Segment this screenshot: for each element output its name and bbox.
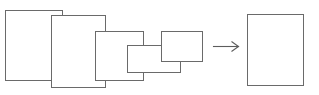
overlapping-rectangles-group [6,11,203,88]
rightward-arrow [214,42,239,52]
result-rectangle-group [248,15,304,86]
diagram-canvas [0,0,319,95]
diagram-svg [0,0,319,95]
rect-5 [162,32,203,62]
rect-result [248,15,304,86]
